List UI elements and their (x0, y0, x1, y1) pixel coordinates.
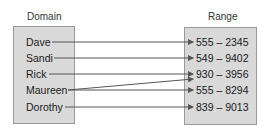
mapping-arrows (0, 0, 271, 128)
arrow-maureen-1 (68, 79, 193, 90)
